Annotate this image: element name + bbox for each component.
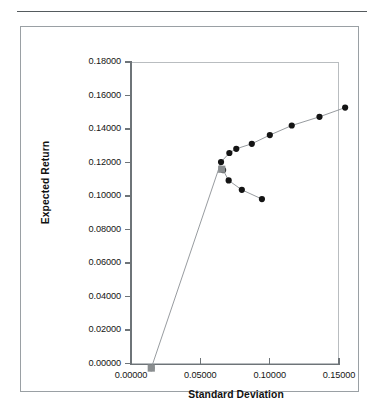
data-point-marker (289, 122, 295, 128)
data-point-marker (249, 141, 255, 147)
series-line (223, 170, 262, 199)
data-point-marker (218, 159, 224, 165)
data-point-marker (259, 196, 265, 202)
data-point-marker (316, 114, 322, 120)
data-point-marker (226, 177, 232, 183)
data-point-marker-square (218, 166, 225, 173)
data-point-marker-square (148, 364, 155, 371)
series-line (151, 108, 345, 368)
data-point-marker (233, 146, 239, 152)
chart-data-layer (21, 27, 382, 409)
figure-container: 0.000000.020000.040000.060000.080000.100… (20, 26, 359, 392)
data-point-marker (342, 105, 348, 111)
data-point-marker (239, 187, 245, 193)
top-rule-divider (17, 11, 367, 12)
data-point-marker (226, 150, 232, 156)
data-point-marker (267, 132, 273, 138)
